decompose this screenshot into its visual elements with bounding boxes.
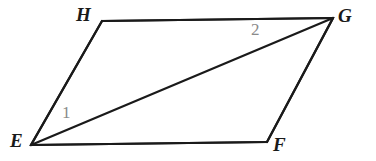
vertex-label-F: F [273,135,286,154]
geometry-figure: E F G H 1 2 [0,0,376,161]
figure-canvas [0,0,376,161]
vertex-label-H: H [76,5,91,24]
vertex-label-G: G [338,6,352,25]
angle-label-2: 2 [251,21,260,38]
vertex-label-E: E [10,131,23,150]
angle-label-1: 1 [62,104,71,121]
